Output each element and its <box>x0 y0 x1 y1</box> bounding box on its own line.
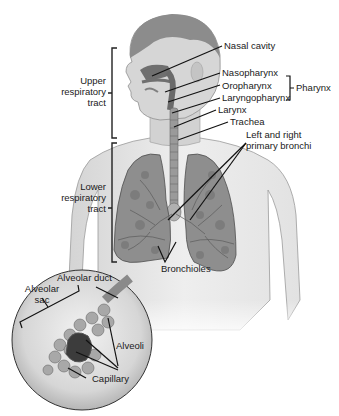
label-lower-line3: tract <box>50 203 106 214</box>
label-lower-line2: respiratory <box>50 192 106 203</box>
label-oropharynx: Oropharynx <box>222 80 272 91</box>
label-primary-bronchi-line1: Left and right <box>246 129 311 140</box>
label-larynx: Larynx <box>218 104 247 115</box>
label-alveolar-sac-line2: sac <box>22 294 62 305</box>
label-bronchioles: Bronchioles <box>161 263 211 274</box>
label-primary-bronchi: Left and right primary bronchi <box>246 129 311 151</box>
label-upper-line2: respiratory <box>50 86 106 97</box>
label-upper-line3: tract <box>50 97 106 108</box>
label-alveolar-sac-line1: Alveolar <box>22 283 62 294</box>
label-capillary: Capillary <box>92 373 129 384</box>
label-alveoli: Alveoli <box>116 340 144 351</box>
label-upper-line1: Upper <box>50 75 106 86</box>
label-laryngopharynx: Laryngopharynx <box>222 92 290 103</box>
label-primary-bronchi-line2: primary bronchi <box>246 140 311 151</box>
label-upper-respiratory-tract: Upper respiratory tract <box>50 75 106 108</box>
label-nasal-cavity: Nasal cavity <box>224 40 275 51</box>
label-nasopharynx: Nasopharynx <box>222 67 278 78</box>
label-lower-line1: Lower <box>50 181 106 192</box>
label-alveolar-duct: Alveolar duct <box>57 272 112 283</box>
label-pharynx: Pharynx <box>296 82 331 93</box>
upper-tract-bracket <box>108 48 117 138</box>
label-trachea: Trachea <box>230 116 265 127</box>
label-lower-respiratory-tract: Lower respiratory tract <box>50 181 106 214</box>
respiratory-system-diagram: Nasal cavity Nasopharynx Oropharynx Lary… <box>0 0 339 416</box>
label-alveolar-sac: Alveolar sac <box>22 283 62 305</box>
